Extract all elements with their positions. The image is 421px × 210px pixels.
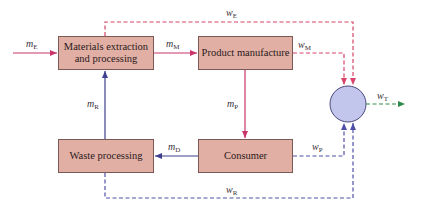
box-consumer-label: Consumer <box>224 150 267 162</box>
box-waste-processing: Waste processing <box>58 139 154 173</box>
label-wE-base: w <box>226 7 233 18</box>
box-waste-processing-label: Waste processing <box>70 150 143 162</box>
flow-diagram-canvas <box>0 0 421 210</box>
label-mM: mM <box>166 39 179 52</box>
flow-arrow-wM <box>293 53 344 85</box>
label-wR-sub: R <box>233 189 238 197</box>
label-wP: wP <box>312 142 323 155</box>
label-wT-base: w <box>377 90 384 101</box>
label-wM-sub: M <box>305 44 311 52</box>
box-materials-extraction: Materials extraction and processing <box>58 36 154 70</box>
label-wT-sub: T <box>384 95 388 103</box>
label-wT: wT <box>377 91 388 104</box>
label-mE-sub: E <box>33 43 37 51</box>
total-waste-node <box>330 86 366 122</box>
label-wE-sub: E <box>233 12 237 20</box>
label-mR: mR <box>87 99 99 112</box>
label-wR: wR <box>226 185 237 198</box>
label-mD: mD <box>168 142 180 155</box>
label-wM: wM <box>298 40 311 53</box>
label-wE: wE <box>226 8 237 21</box>
box-consumer: Consumer <box>198 139 293 173</box>
label-wP-base: w <box>312 141 319 152</box>
box-product-manufacture: Product manufacture <box>198 36 293 70</box>
label-wR-base: w <box>226 184 233 195</box>
box-materials-extraction-line2: and processing <box>75 53 138 65</box>
label-mP: mP <box>227 99 238 112</box>
label-mP-sub: P <box>234 103 238 111</box>
label-mM-sub: M <box>173 43 179 51</box>
label-mR-sub: R <box>94 103 99 111</box>
label-mD-sub: D <box>175 146 180 154</box>
label-wP-sub: P <box>319 146 323 154</box>
label-wM-base: w <box>298 39 305 50</box>
box-product-manufacture-label: Product manufacture <box>202 47 290 59</box>
label-mE: mE <box>26 39 38 52</box>
box-materials-extraction-line1: Materials extraction <box>64 41 148 53</box>
